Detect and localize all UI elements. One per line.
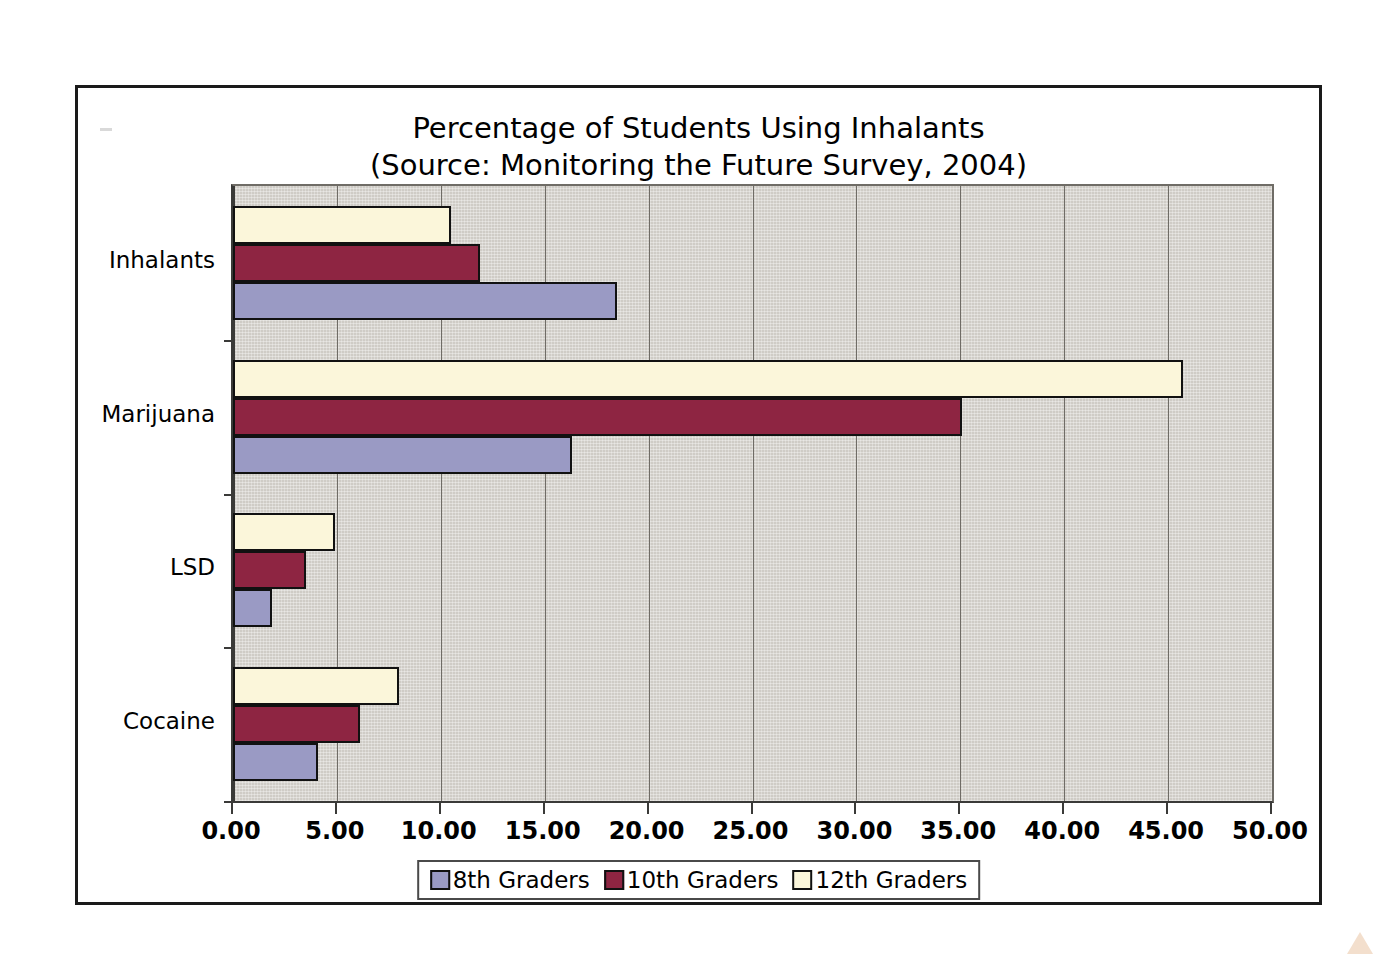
bar-row xyxy=(233,589,1272,627)
gridline xyxy=(1272,186,1273,801)
bar[interactable] xyxy=(233,551,306,589)
category-group: Inhalants xyxy=(233,186,1272,340)
x-axis-tick xyxy=(543,801,545,814)
bar-row xyxy=(233,206,1272,244)
bar-row xyxy=(233,667,1272,705)
legend-label: 10th Graders xyxy=(627,867,779,893)
category-label: Inhalants xyxy=(0,247,233,273)
category-label: Cocaine xyxy=(0,708,233,734)
bar-row xyxy=(233,436,1272,474)
category-group: Cocaine xyxy=(233,647,1272,801)
legend-swatch-icon xyxy=(793,870,813,890)
x-axis-tick xyxy=(1166,801,1168,814)
x-axis-tick-label: 45.00 xyxy=(1128,817,1204,845)
x-axis-tick xyxy=(647,801,649,814)
x-axis-tick-label: 15.00 xyxy=(505,817,581,845)
bar-row xyxy=(233,551,1272,589)
bar-row xyxy=(233,360,1272,398)
category-group: LSD xyxy=(233,494,1272,648)
x-axis-tick-label: 20.00 xyxy=(609,817,685,845)
chart-title-main: Percentage of Students Using Inhalants xyxy=(412,111,984,145)
category-tick xyxy=(224,647,233,649)
x-axis-tick-label: 0.00 xyxy=(201,817,260,845)
bar-row xyxy=(233,513,1272,551)
bar[interactable] xyxy=(233,436,572,474)
bar[interactable] xyxy=(233,244,480,282)
category-group: Marijuana xyxy=(233,340,1272,494)
x-axis-tick xyxy=(1062,801,1064,814)
legend-swatch-icon xyxy=(430,870,450,890)
legend-label: 12th Graders xyxy=(816,867,968,893)
category-tick xyxy=(224,340,233,342)
bar-row xyxy=(233,398,1272,436)
bar[interactable] xyxy=(233,282,617,320)
bar[interactable] xyxy=(233,206,451,244)
category-label: Marijuana xyxy=(0,401,233,427)
x-axis-tick xyxy=(335,801,337,814)
legend-item[interactable]: 10th Graders xyxy=(604,867,779,893)
x-axis-tick xyxy=(1270,801,1272,814)
x-axis-tick xyxy=(958,801,960,814)
bar-row xyxy=(233,244,1272,282)
x-axis-tick-label: 30.00 xyxy=(816,817,892,845)
category-label: LSD xyxy=(0,554,233,580)
x-axis-tick-label: 50.00 xyxy=(1232,817,1308,845)
bar[interactable] xyxy=(233,398,962,436)
legend-label: 8th Graders xyxy=(453,867,590,893)
bar[interactable] xyxy=(233,589,272,627)
scan-artifact-bottom-right xyxy=(1347,932,1373,954)
x-axis-tick-label: 10.00 xyxy=(401,817,477,845)
chart-title: Percentage of Students Using Inhalants (… xyxy=(78,110,1319,184)
bar-row xyxy=(233,705,1272,743)
x-axis-tick-label: 25.00 xyxy=(713,817,789,845)
x-axis-tick-label: 35.00 xyxy=(920,817,996,845)
plot-area: InhalantsMarijuanaLSDCocaine xyxy=(231,184,1274,803)
chart-frame: Percentage of Students Using Inhalants (… xyxy=(75,85,1322,905)
x-axis-tick xyxy=(751,801,753,814)
legend-swatch-icon xyxy=(604,870,624,890)
bar[interactable] xyxy=(233,513,335,551)
bar-row xyxy=(233,282,1272,320)
x-axis-tick xyxy=(439,801,441,814)
bar-row xyxy=(233,743,1272,781)
x-axis-tick xyxy=(854,801,856,814)
bar[interactable] xyxy=(233,360,1183,398)
x-axis-tick-label: 5.00 xyxy=(305,817,364,845)
category-tick xyxy=(224,494,233,496)
bar[interactable] xyxy=(233,743,318,781)
bar[interactable] xyxy=(233,667,399,705)
chart-subtitle: (Source: Monitoring the Future Survey, 2… xyxy=(78,147,1319,184)
x-axis-tick xyxy=(231,801,233,814)
legend-item[interactable]: 12th Graders xyxy=(793,867,968,893)
x-axis-tick-label: 40.00 xyxy=(1024,817,1100,845)
chart-legend: 8th Graders10th Graders12th Graders xyxy=(417,860,981,900)
bar[interactable] xyxy=(233,705,360,743)
legend-item[interactable]: 8th Graders xyxy=(430,867,590,893)
